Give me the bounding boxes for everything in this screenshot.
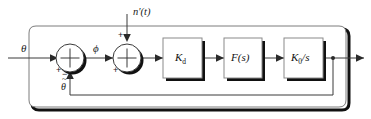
- error-signal-label: ϕ: [93, 43, 99, 54]
- block-fs-label: F(s): [231, 52, 249, 63]
- summer-2-plus-sign-left: +: [113, 66, 118, 75]
- summer-2-plus-sign-top: +: [118, 31, 123, 40]
- block-kd-label-sub: d: [182, 57, 186, 66]
- block-fs-label-main: F(s): [231, 51, 249, 63]
- block-k0s-label: K0/s: [291, 52, 309, 66]
- block-k0s-label-tail: /s: [302, 51, 309, 63]
- block-kd-label: Kd: [175, 52, 186, 66]
- feedback-tap-node: [331, 56, 335, 60]
- arrowhead-output: [356, 54, 364, 62]
- summer-1-minus-sign: −: [62, 70, 67, 79]
- block-diagram-figure: θ ϕ n′(t) θ ~ + − + + Kd F(s) K0/s: [0, 0, 371, 119]
- summer-1-plus-sign: +: [56, 66, 61, 75]
- input-signal-label: θ: [21, 43, 26, 54]
- noise-input-label: n′(t): [133, 7, 150, 18]
